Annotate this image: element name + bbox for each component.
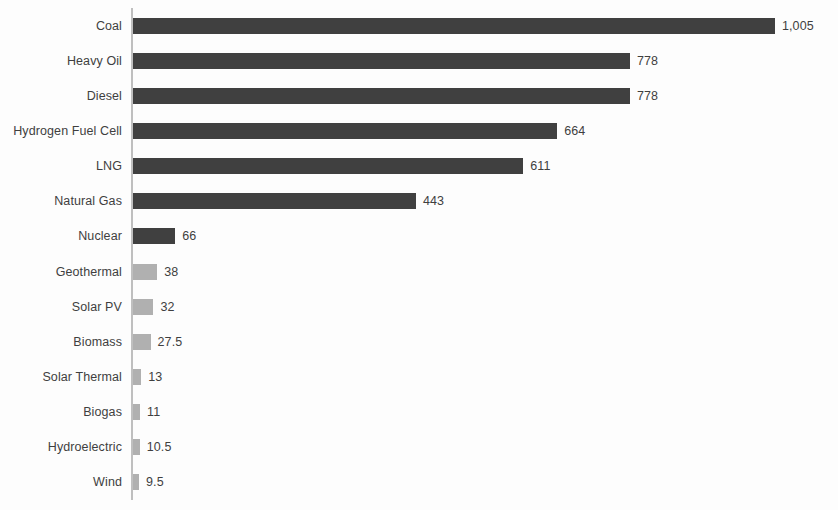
bar-row: Natural Gas443 bbox=[0, 184, 838, 219]
value-label-nuclear: 66 bbox=[182, 228, 196, 244]
category-label-biogas: Biogas bbox=[0, 404, 122, 420]
value-label-coal: 1,005 bbox=[782, 18, 814, 34]
bar-biogas bbox=[133, 404, 140, 420]
category-label-heavy-oil: Heavy Oil bbox=[0, 53, 122, 69]
bar-heavy-oil bbox=[133, 53, 630, 69]
bar-geothermal bbox=[133, 264, 157, 280]
category-label-biomass: Biomass bbox=[0, 334, 122, 350]
category-label-diesel: Diesel bbox=[0, 88, 122, 104]
value-label-lng: 611 bbox=[530, 158, 550, 174]
value-label-hydroelectric: 10.5 bbox=[147, 439, 172, 455]
category-label-hydroelectric: Hydroelectric bbox=[0, 439, 122, 455]
bar-coal bbox=[133, 18, 775, 34]
bar-natural-gas bbox=[133, 193, 416, 209]
category-label-nuclear: Nuclear bbox=[0, 228, 122, 244]
bar-diesel bbox=[133, 88, 630, 104]
value-label-geothermal: 38 bbox=[164, 264, 178, 280]
bar-row: Solar Thermal13 bbox=[0, 359, 838, 394]
bar-row: Heavy Oil778 bbox=[0, 43, 838, 78]
bar-nuclear bbox=[133, 228, 175, 244]
bar-lng bbox=[133, 158, 523, 174]
category-label-lng: LNG bbox=[0, 158, 122, 174]
bar-biomass bbox=[133, 334, 151, 350]
category-label-coal: Coal bbox=[0, 18, 122, 34]
bar-row: Solar PV32 bbox=[0, 289, 838, 324]
value-label-solar-pv: 32 bbox=[160, 299, 174, 315]
bar-row: Wind9.5 bbox=[0, 465, 838, 500]
value-label-solar-thermal: 13 bbox=[148, 369, 162, 385]
bar-row: Biogas11 bbox=[0, 395, 838, 430]
bar-row: Biomass27.5 bbox=[0, 324, 838, 359]
bar-row: Nuclear66 bbox=[0, 219, 838, 254]
bar-row: Geothermal38 bbox=[0, 254, 838, 289]
value-label-heavy-oil: 778 bbox=[637, 53, 658, 69]
bar-hydrogen-fuel-cell bbox=[133, 123, 557, 139]
bar-row: Diesel778 bbox=[0, 78, 838, 113]
bar-row: LNG611 bbox=[0, 149, 838, 184]
category-label-wind: Wind bbox=[0, 474, 122, 490]
category-label-solar-pv: Solar PV bbox=[0, 299, 122, 315]
bar-row: Hydrogen Fuel Cell664 bbox=[0, 113, 838, 148]
value-label-biogas: 11 bbox=[147, 404, 160, 420]
bar-wind bbox=[133, 474, 139, 490]
category-label-solar-thermal: Solar Thermal bbox=[0, 369, 122, 385]
bar-chart: Coal1,005Heavy Oil778Diesel778Hydrogen F… bbox=[0, 0, 838, 510]
category-label-hydrogen-fuel-cell: Hydrogen Fuel Cell bbox=[0, 123, 122, 139]
value-label-hydrogen-fuel-cell: 664 bbox=[564, 123, 585, 139]
bar-solar-thermal bbox=[133, 369, 141, 385]
value-label-natural-gas: 443 bbox=[423, 193, 444, 209]
bar-row: Coal1,005 bbox=[0, 8, 838, 43]
value-label-diesel: 778 bbox=[637, 88, 658, 104]
value-label-wind: 9.5 bbox=[146, 474, 164, 490]
plot-area: Coal1,005Heavy Oil778Diesel778Hydrogen F… bbox=[0, 0, 838, 510]
bar-solar-pv bbox=[133, 299, 153, 315]
bar-row: Hydroelectric10.5 bbox=[0, 430, 838, 465]
category-label-geothermal: Geothermal bbox=[0, 264, 122, 280]
value-label-biomass: 27.5 bbox=[158, 334, 183, 350]
category-label-natural-gas: Natural Gas bbox=[0, 193, 122, 209]
bar-hydroelectric bbox=[133, 439, 140, 455]
